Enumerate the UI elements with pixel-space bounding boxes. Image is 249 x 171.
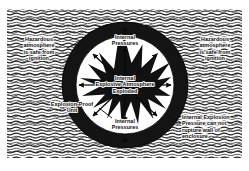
label-line: Exploded (82, 88, 168, 94)
label-line: ignition (10, 55, 68, 61)
explosion-proof-unit-label: Explosion-Proof Unit (41, 101, 103, 114)
label-line: ignition (186, 55, 244, 61)
label-line: Unit (41, 107, 103, 113)
internal-pressures-top-label: Internal Pressures (96, 34, 154, 47)
internal-pressures-bottom-label: Internal Pressures (96, 118, 154, 131)
containment-note-label: Internal Explosion Pressure can not rupt… (182, 114, 246, 140)
hazardous-atmosphere-left-label: Hazardous atmosphere is safe from igniti… (10, 36, 68, 62)
label-line: Pressures (96, 40, 154, 46)
explosion-proof-enclosure-figure: Hazardous atmosphere is safe from igniti… (0, 0, 249, 171)
label-line: enclosure (182, 133, 246, 139)
label-line: Pressures (96, 124, 154, 130)
internal-explosive-atmosphere-label: Internal Explosive Atmosphere Exploded (82, 75, 168, 94)
hazardous-atmosphere-right-label: Hazardous atmosphere is safe from igniti… (186, 36, 244, 62)
